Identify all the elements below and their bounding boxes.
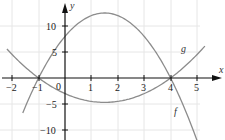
x-tick-label: −2 [6,82,17,93]
y-tick-label: −5 [46,99,57,110]
y-tick-label: 5 [52,47,57,58]
function-graph: −2 −1 0 1 2 3 4 5 10 5 −5 −10 y x f g [0,0,225,140]
y-axis-label: y [69,0,75,11]
grid-lines [0,0,200,140]
x-tick-label: 2 [115,82,120,93]
x-tick-label: 4 [168,82,173,93]
x-tick-label: −1 [32,82,43,93]
y-axis [62,3,68,140]
y-tick-label: −10 [40,125,56,136]
y-tick-label: 10 [46,21,56,32]
curve-g [7,46,205,102]
x-tick-label: 3 [141,82,146,93]
curve-label-g: g [181,43,186,54]
x-axis-label: x [218,64,224,75]
origin-label: 0 [56,81,61,92]
x-tick-label: 5 [194,82,199,93]
x-tick-label: 1 [88,82,93,93]
curve-label-f: f [174,106,178,117]
